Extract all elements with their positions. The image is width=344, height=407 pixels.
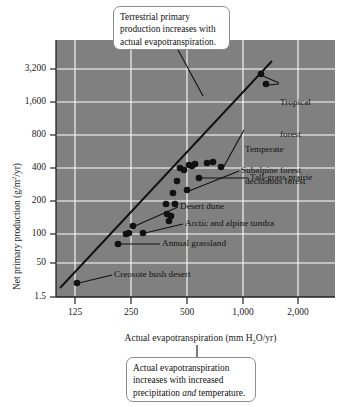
data-point (168, 213, 175, 220)
label-annual-grassland: Annual grassland (162, 238, 226, 249)
y-tick-marks (50, 69, 56, 297)
x-tick-label: 1,000 (221, 307, 265, 318)
callout-top-line3: actual evapotranspiration. (120, 36, 223, 48)
data-point (192, 161, 199, 168)
callout-top-line1: Terrestrial primary (120, 11, 223, 23)
callout-top: Terrestrial primary production increases… (113, 6, 230, 50)
label-tropical-forest-line1: Tropical (280, 97, 311, 108)
callout-bottom-line3: precipitation and temperature. (133, 387, 249, 399)
y-axis-title-main: Net primary production (g/m (12, 180, 22, 290)
y-tick-label: 1.5 (6, 291, 46, 302)
data-point (115, 241, 122, 248)
callout-bottom: Actual evapotranspiration increases with… (126, 357, 256, 402)
data-point (263, 81, 270, 88)
x-tick-label: 500 (165, 307, 209, 318)
data-point (218, 164, 225, 171)
data-point (204, 160, 211, 167)
data-point (181, 167, 188, 174)
data-point (140, 230, 147, 237)
chart-figure: 3,200 1,600 800 400 200 100 50 1.5 125 2… (0, 0, 344, 407)
x-tick-label: 250 (109, 307, 153, 318)
y-tick-label: 1,600 (6, 96, 46, 107)
data-point (163, 201, 170, 208)
x-axis-title-main: Actual evapotranspiration (mm H (125, 333, 253, 343)
data-point (174, 178, 181, 185)
data-point (126, 230, 133, 237)
data-point (170, 190, 177, 197)
label-subalpine-forest: Subalpine forest (241, 165, 301, 176)
callout-bottom-line3-emphasis: and (182, 388, 196, 398)
data-point (258, 71, 265, 78)
x-axis-title-tail: O/yr) (256, 333, 277, 343)
callout-bottom-line1: Actual evapotranspiration (133, 362, 249, 374)
data-point (130, 223, 137, 230)
data-point (74, 280, 81, 287)
label-creosote-bush-desert: Creosote bush desert (114, 269, 191, 280)
callout-top-line2: production increases with (120, 23, 223, 35)
callout-bottom-line2: increases with increased (133, 374, 249, 386)
label-temperate-line1: Temperate (245, 144, 305, 155)
x-tick-label: 2,000 (276, 307, 320, 318)
y-axis-title-tail: /yr) (12, 163, 22, 177)
data-point (210, 159, 217, 166)
x-tick-marks (75, 297, 298, 304)
y-tick-label: 800 (6, 129, 46, 140)
data-point (172, 201, 179, 208)
label-arctic-alpine-tundra: Arctic and alpine tundra (185, 218, 274, 229)
y-axis-title: Net primary production (g/m2/yr) (12, 163, 23, 290)
x-tick-label: 125 (53, 307, 97, 318)
label-desert-dune: Desert dune (180, 201, 224, 212)
y-axis-title-exponent: 2 (10, 177, 17, 180)
y-tick-label: 3,200 (6, 63, 46, 74)
data-point (196, 175, 203, 182)
callout-bottom-line3-pre: precipitation (133, 388, 182, 398)
x-axis-title: Actual evapotranspiration (mm H2O/yr) (46, 322, 344, 356)
data-point (184, 187, 191, 194)
callout-bottom-line3-post: temperature. (196, 388, 245, 398)
